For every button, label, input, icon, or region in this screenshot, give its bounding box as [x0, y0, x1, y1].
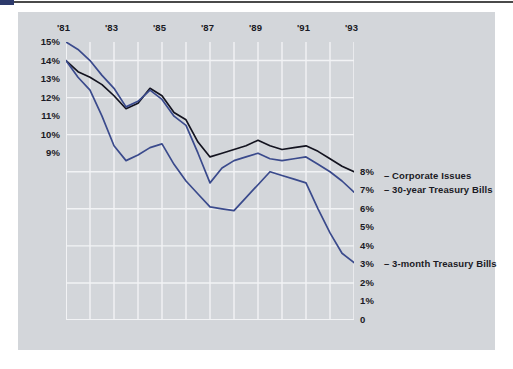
y-tick-label-right: 1%	[360, 295, 374, 306]
y-tick-label-right: 2%	[360, 277, 374, 288]
x-tick-label: '91	[297, 22, 310, 33]
x-tick-label: '93	[345, 22, 358, 33]
legend-entry-2: – 30-year Treasury Bills	[384, 184, 493, 195]
x-tick-label: '85	[153, 22, 166, 33]
x-tick-label: '81	[57, 22, 70, 33]
y-tick-label-right: 0	[360, 314, 365, 325]
x-tick-label: '83	[105, 22, 118, 33]
y-tick-label-right: 5%	[360, 221, 374, 232]
legend-entry-3: – 3-month Treasury Bills	[384, 258, 497, 269]
scan-band	[0, 0, 14, 5]
x-tick-label: '89	[249, 22, 262, 33]
chart-card: '81'83'85'87'89'91'93 15%14%13%12%11%10%…	[18, 12, 495, 350]
y-tick-label-left: 9%	[22, 147, 60, 158]
y-tick-label-right: 6%	[360, 203, 374, 214]
y-tick-label-left: 12%	[22, 92, 60, 103]
y-tick-label-left: 13%	[22, 73, 60, 84]
y-tick-label-right: 3%	[360, 258, 374, 269]
x-tick-label: '87	[201, 22, 214, 33]
plot-area	[66, 42, 354, 320]
top-rule	[14, 1, 513, 3]
chart-figure: '81'83'85'87'89'91'93 15%14%13%12%11%10%…	[0, 0, 513, 369]
y-tick-label-left: 11%	[22, 110, 60, 121]
y-tick-label-left: 15%	[22, 36, 60, 47]
y-tick-label-right: 8%	[360, 166, 374, 177]
plot-svg	[66, 42, 354, 320]
legend-entry-1: – Corporate Issues	[384, 170, 471, 181]
y-tick-label-right: 4%	[360, 240, 374, 251]
y-tick-label-right: 7%	[360, 184, 374, 195]
y-tick-label-left: 10%	[22, 129, 60, 140]
y-tick-label-left: 14%	[22, 55, 60, 66]
